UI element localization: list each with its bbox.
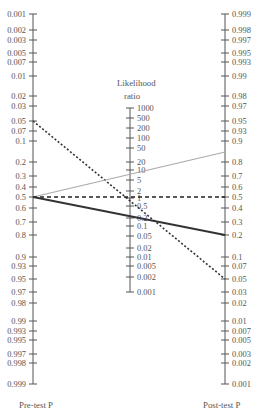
tick-label: 0.2 bbox=[16, 158, 26, 167]
tick-label: 500 bbox=[137, 114, 150, 123]
tick-label: 0.3 bbox=[16, 172, 26, 181]
tick-label: 0.998 bbox=[232, 26, 251, 35]
tick-label: 0.05 bbox=[232, 275, 247, 284]
tick-label: 0.1 bbox=[16, 137, 26, 146]
tick-label: 0.01 bbox=[11, 72, 26, 81]
tick-label: 0.998 bbox=[7, 359, 26, 368]
tick-label: 0.9 bbox=[16, 253, 26, 262]
tick-label: 0.98 bbox=[232, 92, 247, 101]
post-test-label: Post-test P bbox=[203, 400, 241, 410]
tick-label: 0.003 bbox=[232, 350, 251, 359]
dotted-line bbox=[33, 121, 225, 279]
likelihood-label-line1: Likelihood bbox=[117, 78, 156, 88]
tick-label: 0.02 bbox=[232, 299, 247, 308]
tick-label: 0.8 bbox=[16, 231, 26, 240]
tick-label: 0.03 bbox=[232, 288, 247, 297]
tick-label: 0.6 bbox=[232, 183, 242, 192]
tick-label: 0.99 bbox=[232, 72, 247, 81]
tick-label: 0.95 bbox=[232, 117, 247, 126]
dark-line bbox=[33, 197, 225, 235]
nomogram-lines bbox=[33, 121, 225, 279]
tick-label: 0.002 bbox=[232, 359, 251, 368]
tick-label: 0.8 bbox=[232, 158, 242, 167]
post-test-axis: 0.9990.9980.9970.9950.9930.990.980.970.9… bbox=[221, 10, 251, 389]
tick-label: 0.005 bbox=[137, 262, 156, 271]
tick-label: 0.001 bbox=[232, 380, 251, 389]
fagan-nomogram: 0.0010.0020.0030.0050.0070.010.020.030.0… bbox=[0, 0, 265, 414]
tick-label: 0.5 bbox=[232, 193, 242, 202]
tick-label: 0.1 bbox=[137, 222, 147, 231]
tick-label: 0.95 bbox=[11, 275, 26, 284]
tick-label: 0.01 bbox=[137, 253, 152, 262]
tick-label: 0.97 bbox=[232, 102, 247, 111]
tick-label: 0.07 bbox=[232, 262, 247, 271]
tick-label: 0.993 bbox=[232, 58, 251, 67]
tick-label: 0.4 bbox=[16, 183, 27, 192]
tick-label: 0.01 bbox=[232, 317, 247, 326]
tick-label: 0.07 bbox=[11, 127, 26, 136]
tick-label: 0.97 bbox=[11, 288, 26, 297]
tick-label: 0.98 bbox=[11, 299, 26, 308]
tick-label: 0.997 bbox=[7, 350, 26, 359]
tick-label: 0.005 bbox=[7, 49, 26, 58]
tick-label: 5 bbox=[137, 176, 141, 185]
tick-label: 0.995 bbox=[7, 336, 26, 345]
tick-label: 0.3 bbox=[232, 218, 242, 227]
tick-label: 50 bbox=[137, 144, 145, 153]
tick-label: 0.93 bbox=[11, 262, 26, 271]
tick-label: 0.05 bbox=[137, 232, 152, 241]
tick-label: 0.4 bbox=[232, 204, 243, 213]
tick-label: 0.5 bbox=[137, 202, 147, 211]
tick-label: 0.99 bbox=[11, 317, 26, 326]
pre-test-label: Pre-test P bbox=[19, 400, 53, 410]
tick-label: 0.001 bbox=[7, 10, 26, 19]
tick-label: 0.002 bbox=[137, 273, 156, 282]
tick-label: 0.02 bbox=[137, 244, 152, 253]
tick-label: 0.1 bbox=[232, 253, 242, 262]
tick-label: 0.6 bbox=[16, 204, 26, 213]
tick-label: 0.003 bbox=[7, 36, 26, 45]
pre-test-axis: 0.0010.0020.0030.0050.0070.010.020.030.0… bbox=[7, 10, 37, 389]
likelihood-label-line2: ratio bbox=[124, 91, 141, 101]
tick-label: 0.05 bbox=[11, 117, 26, 126]
tick-label: 0.005 bbox=[232, 336, 251, 345]
tick-label: 0.993 bbox=[7, 327, 26, 336]
tick-label: 200 bbox=[137, 124, 150, 133]
tick-label: 0.002 bbox=[7, 26, 26, 35]
tick-label: 0.995 bbox=[232, 49, 251, 58]
tick-label: 0.5 bbox=[16, 193, 26, 202]
tick-label: 0.02 bbox=[11, 92, 26, 101]
tick-label: 0.2 bbox=[232, 231, 242, 240]
tick-label: 0.997 bbox=[232, 36, 251, 45]
tick-label: 0.7 bbox=[16, 218, 26, 227]
tick-label: 1000 bbox=[137, 104, 154, 113]
tick-label: 100 bbox=[137, 134, 150, 143]
tick-label: 0.03 bbox=[11, 102, 26, 111]
tick-label: 0.999 bbox=[232, 10, 251, 19]
tick-label: 0.007 bbox=[7, 58, 26, 67]
tick-label: 0.93 bbox=[232, 127, 247, 136]
tick-label: 0.007 bbox=[232, 327, 251, 336]
tick-label: 0.7 bbox=[232, 172, 242, 181]
tick-label: 0.9 bbox=[232, 137, 242, 146]
tick-label: 0.001 bbox=[137, 288, 156, 297]
gray-line bbox=[33, 152, 225, 197]
tick-label: 0.999 bbox=[7, 380, 26, 389]
